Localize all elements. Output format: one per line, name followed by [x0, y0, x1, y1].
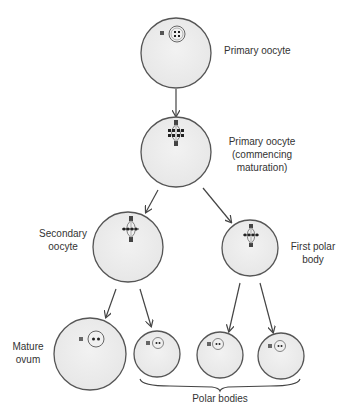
arrow-secondary-to-ovum [106, 289, 116, 317]
cell-mature-ovum [54, 318, 126, 390]
label-primary-oocyte: Primary oocyte [224, 45, 291, 57]
nucleus-icon [88, 331, 104, 347]
arrow-first-polar-to-polar2 [229, 283, 240, 331]
label-primary-maturing-1: Primary oocyte [222, 136, 302, 148]
cell-polar-body-2 [197, 332, 243, 378]
cell-first-polar-body [222, 220, 278, 276]
label-primary-maturing-3: maturation) [222, 162, 302, 174]
nucleus-icon [275, 341, 286, 352]
label-secondary-2: oocyte [30, 241, 96, 253]
arrow-secondary-to-polar1 [140, 289, 151, 326]
arrow-first-polar-to-polar3 [260, 283, 273, 332]
label-mature-1: Mature [6, 341, 50, 353]
arrow-maturing-to-secondary [146, 190, 158, 212]
arrow-maturing-to-first-polar [203, 188, 231, 222]
nucleus-icon [169, 26, 185, 42]
label-mature-2: ovum [6, 354, 50, 366]
label-first-polar-2: body [280, 254, 346, 266]
centrosome-icon [160, 31, 164, 35]
diagram-canvas [0, 0, 349, 417]
cell-primary-oocyte [141, 18, 211, 88]
cell-primary-oocyte-maturing [141, 117, 211, 187]
label-secondary-1: Secondary [30, 228, 96, 240]
label-polar-bodies: Polar bodies [180, 393, 260, 405]
nucleus-icon [213, 339, 224, 350]
centrosome-icon [207, 342, 211, 346]
centrosome-icon [79, 337, 83, 341]
polar-bodies-brace [140, 379, 300, 391]
cell-polar-body-1 [134, 331, 180, 377]
oogenesis-diagram: Primary oocyte Primary oocyte (commencin… [0, 0, 349, 417]
centrosome-icon [146, 341, 150, 345]
nucleus-icon [153, 338, 164, 349]
label-primary-maturing-2: (commencing [222, 149, 302, 161]
cell-polar-body-3 [258, 333, 304, 379]
label-first-polar-1: First polar [280, 241, 346, 253]
cell-secondary-oocyte [93, 212, 163, 282]
centrosome-icon [268, 344, 272, 348]
